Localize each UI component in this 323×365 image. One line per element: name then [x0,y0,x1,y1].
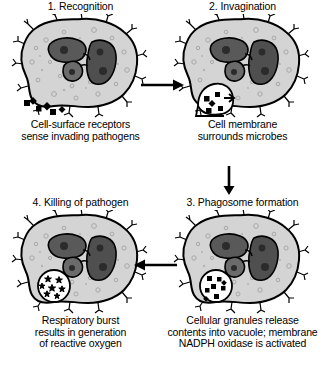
caption-invagination-line-2: surrounds microbes [162,131,323,143]
arrow-2-to-3 [222,166,236,200]
phagocyte-cell-invagination [162,14,323,118]
arrow-right-icon [141,78,185,92]
panel-title-invagination: 2. Invagination [162,0,323,14]
caption-killing-line-1: Respiratory burst [0,315,161,327]
phagosome-vacuole [38,270,70,302]
panel-title-phagosome-formation: 3. Phagosome formation [162,196,323,210]
cell-illustration-phagosome [168,210,318,314]
arrow-1-to-2 [141,78,185,96]
caption-phagosome-line-3: NADPH oxidase is activated [162,338,323,350]
arrow-3-to-4 [133,258,177,276]
phagosome-vacuole [200,270,232,302]
phagocyte-cell-phagosome [162,210,323,314]
caption-invagination-line-1: Cell membrane [162,119,323,131]
caption-phagosome-line-1: Cellular granules release [162,315,323,327]
cell-illustration-invagination [168,14,318,118]
caption-recognition-line-2: sense invading pathogens [0,131,161,143]
phagocytosis-figure: 1. Recognition [0,0,323,365]
caption-invagination: Cell membrane surrounds microbes [162,119,323,142]
panel-phagosome-formation: 3. Phagosome formation [162,196,323,350]
phagocyte-cell-recognition [0,14,161,118]
arrow-down-icon [222,166,236,196]
panel-title-killing-of-pathogen: 4. Killing of pathogen [0,196,161,210]
cell-illustration-recognition [6,14,156,118]
arrow-left-icon [133,258,177,272]
caption-killing-of-pathogen: Respiratory burst results in generation … [0,315,161,350]
caption-recognition-line-1: Cell-surface receptors [0,119,161,131]
caption-killing-line-3: of reactive oxygen [0,338,161,350]
panel-recognition: 1. Recognition [0,0,161,142]
caption-recognition: Cell-surface receptors sense invading pa… [0,119,161,142]
panel-invagination: 2. Invagination [162,0,323,142]
panel-title-recognition: 1. Recognition [0,0,161,14]
caption-phagosome-formation: Cellular granules release contents into … [162,315,323,350]
